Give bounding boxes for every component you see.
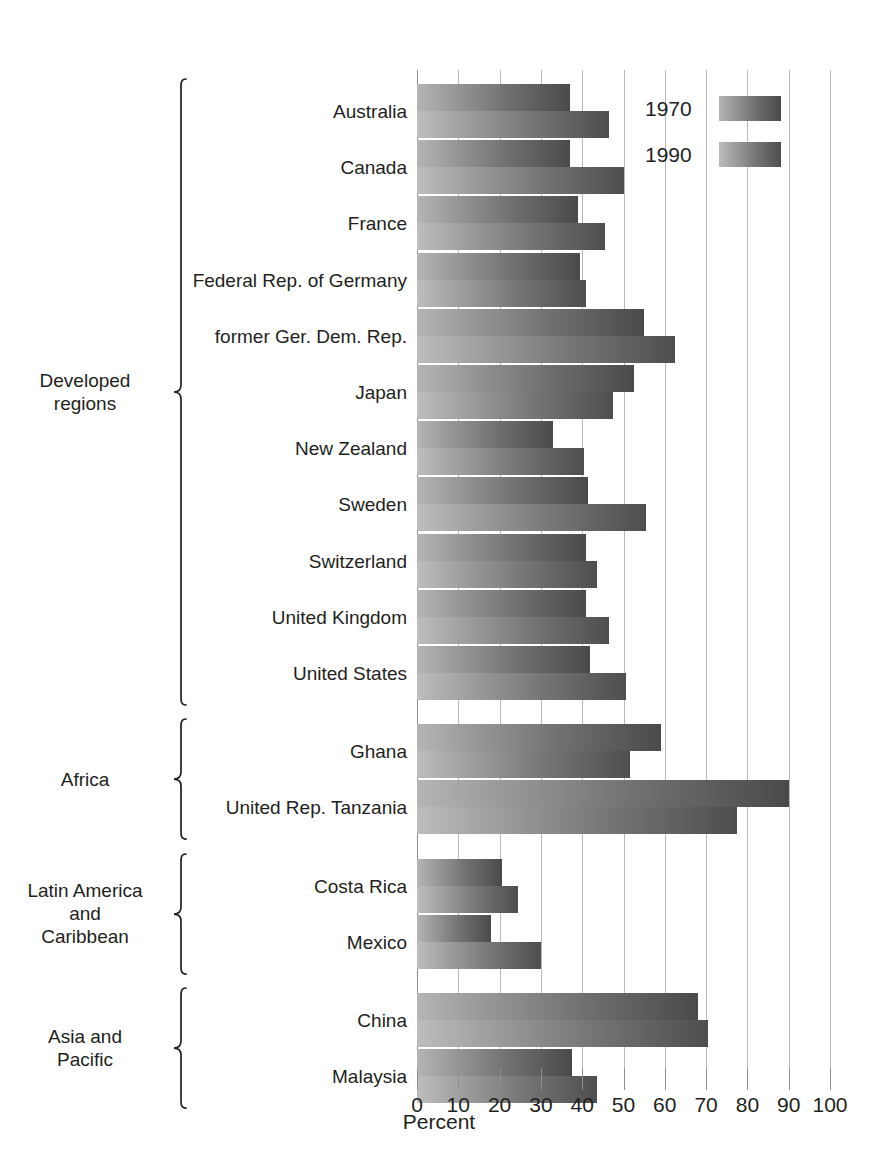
bar-row bbox=[417, 859, 830, 886]
bar-australia-1970 bbox=[417, 84, 570, 111]
category-label-federal-rep-of-germany: Federal Rep. of Germany bbox=[193, 271, 407, 290]
bar-federal-rep-of-germany-1970 bbox=[417, 253, 580, 280]
bar-france-1990 bbox=[417, 223, 605, 250]
bar-sweden-1990 bbox=[417, 504, 646, 531]
bar-row bbox=[417, 280, 830, 307]
bar-canada-1970 bbox=[417, 140, 570, 167]
bar-row bbox=[417, 477, 830, 504]
bar-row bbox=[417, 886, 830, 913]
bar-row bbox=[417, 561, 830, 588]
x-tick-60 bbox=[665, 1068, 666, 1090]
bar-row bbox=[417, 807, 830, 834]
category-label-australia: Australia bbox=[333, 102, 407, 121]
group-label-africa: Africa bbox=[0, 768, 170, 791]
bar-costa-rica-1970 bbox=[417, 859, 502, 886]
category-label-switzerland: Switzerland bbox=[309, 552, 407, 571]
category-label-mexico: Mexico bbox=[347, 933, 407, 952]
group-label-line: and bbox=[0, 902, 170, 925]
bar-japan-1970 bbox=[417, 365, 634, 392]
bar-japan-1990 bbox=[417, 392, 613, 419]
bar-row bbox=[417, 724, 830, 751]
x-tick-20 bbox=[500, 1068, 501, 1090]
group-label-latin-america-and-caribbean: Latin AmericaandCaribbean bbox=[0, 879, 170, 948]
bar-row bbox=[417, 534, 830, 561]
bar-australia-1990 bbox=[417, 111, 609, 138]
group-label-line: regions bbox=[0, 392, 170, 415]
category-label-new-zealand: New Zealand bbox=[295, 439, 407, 458]
bar-mexico-1970 bbox=[417, 915, 491, 942]
x-tick-40 bbox=[582, 1068, 583, 1090]
bar-row bbox=[417, 915, 830, 942]
bar-row bbox=[417, 751, 830, 778]
bar-canada-1990 bbox=[417, 167, 624, 194]
x-tick-30 bbox=[541, 1068, 542, 1090]
bar-row bbox=[417, 309, 830, 336]
chart-container: AustraliaCanadaFranceFederal Rep. of Ger… bbox=[0, 0, 878, 1160]
bar-france-1970 bbox=[417, 196, 578, 223]
bar-row bbox=[417, 617, 830, 644]
bar-china-1990 bbox=[417, 1020, 708, 1047]
category-label-china: China bbox=[357, 1011, 407, 1030]
bar-row bbox=[417, 253, 830, 280]
bar-row bbox=[417, 448, 830, 475]
bar-row bbox=[417, 196, 830, 223]
group-label-line: Asia and bbox=[0, 1025, 170, 1048]
bracket-2 bbox=[172, 853, 188, 975]
x-tick-0 bbox=[417, 1068, 418, 1090]
bracket-1 bbox=[172, 718, 188, 840]
bar-mexico-1990 bbox=[417, 942, 541, 969]
bar-row bbox=[417, 421, 830, 448]
group-label-line: Pacific bbox=[0, 1048, 170, 1071]
category-label-united-states: United States bbox=[293, 664, 407, 683]
group-label-developed-regions: Developedregions bbox=[0, 369, 170, 415]
bar-former-ger-dem-rep--1970 bbox=[417, 309, 644, 336]
bar-federal-rep-of-germany-1990 bbox=[417, 280, 586, 307]
legend-swatch-1970 bbox=[719, 96, 781, 121]
bracket-3 bbox=[172, 987, 188, 1109]
group-label-line: Developed bbox=[0, 369, 170, 392]
category-label-sweden: Sweden bbox=[338, 495, 407, 514]
bar-row bbox=[417, 223, 830, 250]
bar-malaysia-1970 bbox=[417, 1049, 572, 1076]
legend-label-1970: 1970 bbox=[645, 98, 705, 119]
bar-row bbox=[417, 646, 830, 673]
bar-switzerland-1970 bbox=[417, 534, 586, 561]
bar-costa-rica-1990 bbox=[417, 886, 518, 913]
legend-label-1990: 1990 bbox=[645, 144, 705, 165]
bar-united-states-1970 bbox=[417, 646, 590, 673]
bar-row bbox=[417, 1020, 830, 1047]
bar-united-states-1990 bbox=[417, 673, 626, 700]
bar-row bbox=[417, 504, 830, 531]
category-label-united-kingdom: United Kingdom bbox=[272, 608, 407, 627]
x-tick-90 bbox=[789, 1068, 790, 1090]
bar-new-zealand-1990 bbox=[417, 448, 584, 475]
bar-row bbox=[417, 392, 830, 419]
group-label-line: Caribbean bbox=[0, 925, 170, 948]
category-label-ghana: Ghana bbox=[350, 742, 407, 761]
bar-row bbox=[417, 365, 830, 392]
category-label-japan: Japan bbox=[355, 383, 407, 402]
x-tick-100 bbox=[830, 1068, 831, 1090]
category-label-united-rep-tanzania: United Rep. Tanzania bbox=[226, 798, 407, 817]
legend-swatch-1990 bbox=[719, 142, 781, 167]
bar-row bbox=[417, 336, 830, 363]
bar-row bbox=[417, 780, 830, 807]
group-label-line: Africa bbox=[0, 768, 170, 791]
bar-ghana-1990 bbox=[417, 751, 630, 778]
category-label-canada: Canada bbox=[340, 158, 407, 177]
category-label-malaysia: Malaysia bbox=[332, 1067, 407, 1086]
bracket-0 bbox=[172, 78, 188, 706]
bar-row bbox=[417, 590, 830, 617]
bar-new-zealand-1970 bbox=[417, 421, 553, 448]
bar-former-ger-dem-rep--1990 bbox=[417, 336, 675, 363]
bar-united-rep-tanzania-1990 bbox=[417, 807, 737, 834]
x-tick-50 bbox=[624, 1068, 625, 1090]
bar-ghana-1970 bbox=[417, 724, 661, 751]
group-label-line: Latin America bbox=[0, 879, 170, 902]
bar-row bbox=[417, 942, 830, 969]
chart-legend: 1970 1990 bbox=[645, 95, 781, 187]
x-tick-10 bbox=[458, 1068, 459, 1090]
bar-row bbox=[417, 993, 830, 1020]
bar-united-rep-tanzania-1970 bbox=[417, 780, 789, 807]
group-label-asia-and-pacific: Asia andPacific bbox=[0, 1025, 170, 1071]
